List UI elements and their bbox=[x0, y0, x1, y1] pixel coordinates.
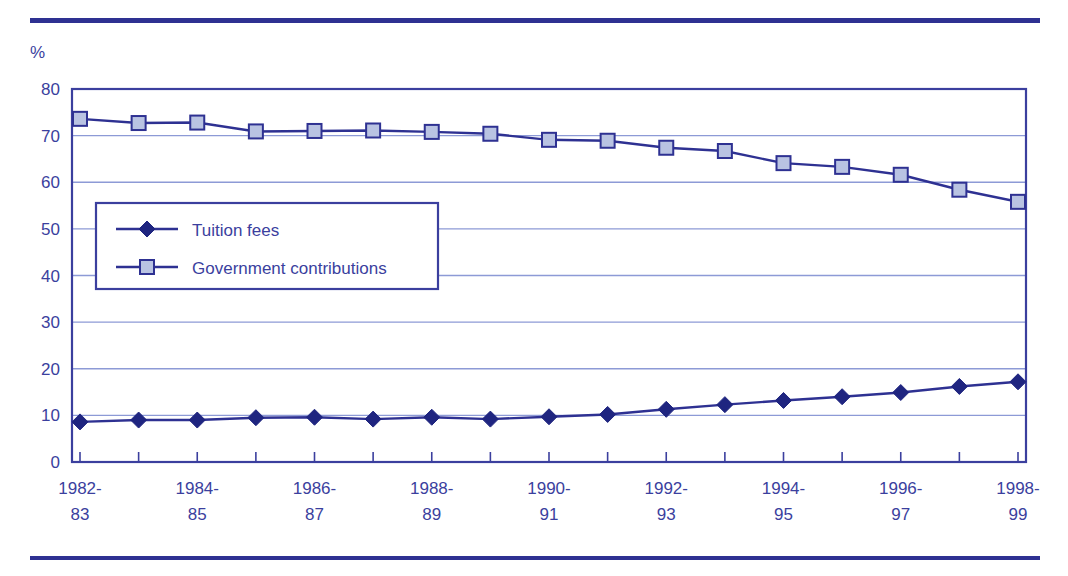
x-axis-tick-label: 1992- bbox=[645, 479, 688, 498]
x-axis-tick-label: 83 bbox=[71, 505, 90, 524]
x-axis-tick-label: 91 bbox=[540, 505, 559, 524]
series-tuition-fees bbox=[72, 374, 1026, 430]
data-point-marker bbox=[952, 183, 966, 197]
data-point-marker bbox=[365, 411, 381, 427]
x-axis-tick-label: 1982- bbox=[58, 479, 101, 498]
legend-marker-square bbox=[140, 260, 154, 274]
data-point-marker bbox=[718, 144, 732, 158]
x-axis-tick-label: 99 bbox=[1009, 505, 1028, 524]
data-point-marker bbox=[951, 378, 967, 394]
y-axis-tick-label: 50 bbox=[41, 220, 60, 239]
data-point-marker bbox=[190, 116, 204, 130]
data-point-marker bbox=[601, 134, 615, 148]
y-axis-tick-label: 20 bbox=[41, 360, 60, 379]
x-axis-tick-label: 95 bbox=[774, 505, 793, 524]
y-axis-tick-label: 30 bbox=[41, 313, 60, 332]
data-point-marker bbox=[893, 385, 909, 401]
data-point-marker bbox=[482, 411, 498, 427]
y-axis-tick-label: 60 bbox=[41, 173, 60, 192]
x-axis-tick-label: 93 bbox=[657, 505, 676, 524]
data-point-marker bbox=[1010, 374, 1026, 390]
y-axis-tick-label: 0 bbox=[51, 453, 60, 472]
y-axis-tick-label: 10 bbox=[41, 406, 60, 425]
data-point-marker bbox=[541, 409, 557, 425]
data-point-marker bbox=[1011, 195, 1025, 209]
data-point-marker bbox=[425, 125, 439, 139]
legend-label: Government contributions bbox=[192, 259, 387, 278]
x-axis-tick-label: 89 bbox=[422, 505, 441, 524]
x-axis-tick-label: 1996- bbox=[879, 479, 922, 498]
data-point-marker bbox=[776, 392, 792, 408]
data-point-marker bbox=[894, 168, 908, 182]
plot-area: 010203040506070801982-831984-851986-8719… bbox=[0, 0, 1068, 576]
x-axis-tick-label: 97 bbox=[891, 505, 910, 524]
series-government-contributions bbox=[73, 112, 1025, 209]
line-chart-svg: 010203040506070801982-831984-851986-8719… bbox=[0, 0, 1068, 576]
data-point-marker bbox=[248, 410, 264, 426]
x-axis-tick-label: 85 bbox=[188, 505, 207, 524]
x-axis-tick-label: 1988- bbox=[410, 479, 453, 498]
x-axis-tick-label: 1986- bbox=[293, 479, 336, 498]
data-point-marker bbox=[483, 127, 497, 141]
data-point-marker bbox=[189, 412, 205, 428]
x-axis-tick-label: 87 bbox=[305, 505, 324, 524]
x-axis-tick-label: 1994- bbox=[762, 479, 805, 498]
chart-legend: Tuition feesGovernment contributions bbox=[96, 203, 438, 289]
data-point-marker bbox=[542, 133, 556, 147]
data-point-marker bbox=[72, 414, 88, 430]
y-axis-tick-label: 70 bbox=[41, 127, 60, 146]
x-axis-tick-label: 1998- bbox=[996, 479, 1039, 498]
data-point-marker bbox=[132, 116, 146, 130]
series-line bbox=[80, 119, 1018, 202]
chart-figure: % 010203040506070801982-831984-851986-87… bbox=[0, 0, 1068, 576]
legend-label: Tuition fees bbox=[192, 221, 279, 240]
data-point-marker bbox=[835, 160, 849, 174]
y-axis-tick-label: 80 bbox=[41, 80, 60, 99]
data-point-marker bbox=[308, 124, 322, 138]
y-axis-tick-label: 40 bbox=[41, 267, 60, 286]
x-axis-tick-label: 1984- bbox=[176, 479, 219, 498]
data-point-marker bbox=[366, 123, 380, 137]
data-point-marker bbox=[424, 409, 440, 425]
data-point-marker bbox=[73, 112, 87, 126]
data-point-marker bbox=[249, 124, 263, 138]
x-axis-tick-label: 1990- bbox=[527, 479, 570, 498]
data-point-marker bbox=[777, 156, 791, 170]
data-point-marker bbox=[600, 406, 616, 422]
data-point-marker bbox=[307, 409, 323, 425]
data-point-marker bbox=[131, 412, 147, 428]
data-point-marker bbox=[834, 389, 850, 405]
data-point-marker bbox=[717, 397, 733, 413]
data-point-marker bbox=[659, 141, 673, 155]
